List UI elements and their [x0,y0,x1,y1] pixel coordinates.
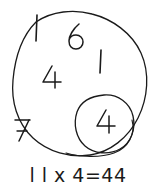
six-glyph [69,24,83,49]
one-right-stroke [100,50,101,73]
inner-circle [75,95,134,153]
one-top-stroke [36,15,37,41]
four-inner-glyph [97,110,115,133]
diagram-canvas: l l x 4=44 [0,0,156,191]
outer-circle [13,11,147,155]
four-left-glyph [43,66,61,88]
equation-text: l l x 4=44 [0,164,156,186]
sketch-layer [0,0,156,191]
seven-glyph [15,120,30,141]
